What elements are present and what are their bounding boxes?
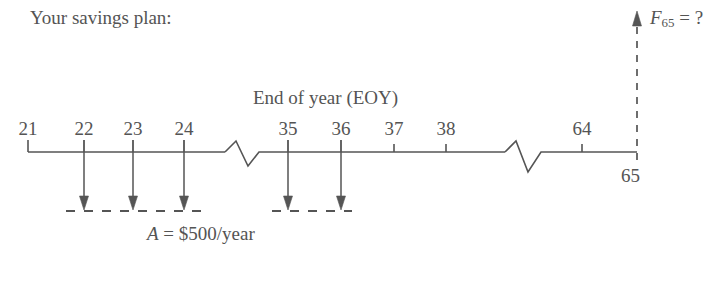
cash-flow-arrow-year-36 bbox=[337, 152, 346, 210]
year-label-64: 64 bbox=[573, 118, 592, 140]
year-label-37: 37 bbox=[385, 118, 404, 140]
cash-flow-amount-label: A = $500/year bbox=[147, 224, 255, 243]
axis-break-zigzag-1 bbox=[225, 141, 265, 166]
cash-flow-arrow-year-22 bbox=[80, 152, 89, 210]
year-label-65: 65 bbox=[621, 166, 640, 185]
year-label-38: 38 bbox=[437, 118, 456, 140]
cash-flow-diagram: Your savings plan: End of year (EOY) A =… bbox=[0, 0, 724, 283]
year-label-36: 36 bbox=[332, 118, 351, 140]
year-label-35: 35 bbox=[279, 118, 298, 140]
cash-flow-arrow-year-23 bbox=[129, 152, 138, 210]
future-value-arrow-year-65 bbox=[633, 11, 642, 160]
year-label-21: 21 bbox=[19, 118, 38, 140]
year-label-23: 23 bbox=[124, 118, 143, 140]
timeline-graphic bbox=[0, 0, 724, 283]
year-label-22: 22 bbox=[75, 118, 94, 140]
page-title: Your savings plan: bbox=[30, 8, 172, 27]
future-value-label: F65 = ? bbox=[650, 8, 703, 30]
cash-flow-arrow-year-24 bbox=[180, 152, 189, 210]
axis-break-zigzag-2 bbox=[505, 141, 548, 172]
year-label-24: 24 bbox=[175, 118, 194, 140]
cash-flow-arrow-year-35 bbox=[284, 152, 293, 210]
axis-label-end-of-year: End of year (EOY) bbox=[253, 88, 398, 107]
